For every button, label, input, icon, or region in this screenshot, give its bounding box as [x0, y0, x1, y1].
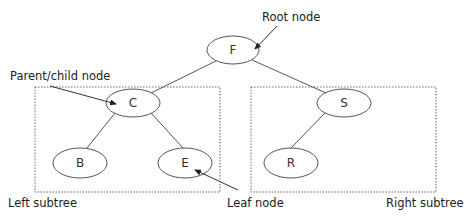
node-c-label: C: [129, 96, 137, 110]
binary-tree-diagram: F C S B E R Root node Parent/child node …: [0, 0, 467, 217]
node-r-label: R: [287, 156, 295, 170]
edge-c-e: [151, 113, 183, 148]
left-subtree-annotation: Left subtree: [8, 196, 77, 210]
leaf-node-annotation: Leaf node: [227, 196, 284, 210]
parent-child-node-annotation: Parent/child node: [10, 69, 110, 83]
parent-child-pointer-arrow: [50, 86, 116, 104]
node-f-label: F: [230, 43, 237, 57]
node-e: E: [158, 148, 212, 178]
node-b: B: [53, 148, 107, 178]
node-f: F: [207, 36, 259, 64]
edge-c-b: [87, 113, 115, 148]
node-s-label: S: [340, 96, 348, 110]
node-b-label: B: [76, 156, 84, 170]
edge-s-r: [291, 113, 325, 148]
node-e-label: E: [181, 156, 189, 170]
node-s: S: [317, 89, 371, 117]
root-node-annotation: Root node: [262, 10, 320, 24]
root-pointer-arrow: [255, 26, 277, 49]
edge-f-s: [252, 60, 326, 93]
right-subtree-annotation: Right subtree: [386, 196, 464, 210]
leaf-pointer-arrow: [195, 170, 238, 190]
node-r: R: [264, 148, 318, 178]
edge-f-c: [151, 61, 216, 93]
